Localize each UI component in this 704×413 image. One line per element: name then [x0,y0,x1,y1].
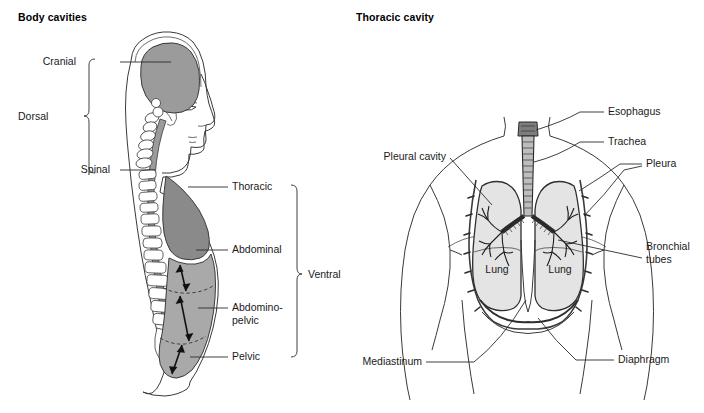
label-cranial: Cranial [43,55,76,67]
label-thoracic: Thoracic [232,180,272,192]
panel-thoracic-cavity: Thoracic cavity [352,0,704,413]
thoracic-cavity-region [163,176,210,260]
leader-esophagus [536,112,604,130]
label-dorsal: Dorsal [18,110,48,122]
panel-body-cavities: Body cavities [0,0,352,413]
lung-right-region [535,182,583,311]
leader-trachea [534,142,604,162]
label-abdominopelvic-line1: Abdomino- [232,301,283,313]
cranial-cavity-region [141,43,200,121]
label-trachea: Trachea [608,135,646,147]
body-cavities-illustration: Dorsal Ventral Cranial Spinal Thoracic A… [0,0,352,413]
label-diaphragm: Diaphragm [618,353,670,365]
label-bronchial-tubes-line1: Bronchial [646,240,690,252]
abdominopelvic-cavity-region [159,254,216,378]
trachea [518,122,538,216]
label-abdominopelvic-line2: pelvic [232,314,259,326]
leader-pleural-cavity [450,158,492,205]
lung-left-region [473,182,521,311]
thoracic-cavity-illustration: Lung Lung Pleural cavity Esophagus Trach… [352,0,704,413]
brace-ventral [291,185,302,357]
label-spinal: Spinal [81,163,110,175]
label-lung-left: Lung [485,263,509,275]
brace-dorsal [84,59,95,173]
label-bronchial-tubes-line2: tubes [646,253,672,265]
label-pelvic: Pelvic [232,350,260,362]
label-mediastinum: Mediastinum [362,355,422,367]
label-lung-right: Lung [548,263,572,275]
leader-diaphragm [538,318,614,360]
label-ventral: Ventral [308,268,341,280]
label-abdominal: Abdominal [232,243,282,255]
label-esophagus: Esophagus [608,105,661,117]
figure-root: Body cavities [0,0,704,413]
label-pleural-cavity: Pleural cavity [384,150,447,162]
label-pleura: Pleura [646,157,677,169]
